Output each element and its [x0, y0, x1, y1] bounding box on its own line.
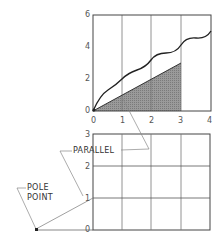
pole-point-marker — [35, 228, 38, 231]
upper-plot — [93, 15, 212, 112]
lower-y-tick: 0 — [85, 226, 90, 234]
x-tick: 4 — [207, 117, 212, 125]
pole-label-line2: POINT — [27, 194, 53, 202]
lower-y-tick: 2 — [85, 163, 90, 171]
parallel-label: PARALLEL — [73, 147, 114, 155]
upper-y-tick: 4 — [85, 43, 90, 51]
upper-y-tick: 0 — [85, 107, 90, 115]
lower-y-tick: 3 — [85, 131, 90, 139]
x-tick: 2 — [149, 117, 154, 125]
leader-lines — [17, 97, 149, 230]
lower-y-tick: 1 — [85, 195, 90, 203]
diagram-canvas — [0, 0, 222, 243]
x-tick: 3 — [178, 117, 183, 125]
upper-y-tick: 6 — [85, 11, 90, 19]
upper-y-tick: 2 — [85, 75, 90, 83]
x-tick: 1 — [120, 117, 125, 125]
x-tick: 0 — [91, 117, 96, 125]
pole-label-line1: POLE — [27, 184, 49, 192]
